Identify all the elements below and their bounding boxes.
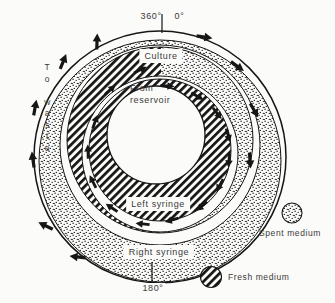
degree-0-label: 0°: [175, 11, 185, 21]
degree-360-label: 360°: [141, 11, 162, 21]
legend-spent-medium-label: Spent medium: [259, 228, 321, 238]
flow-arrow: [92, 33, 101, 49]
left-syringe-label: Left syringe: [126, 197, 190, 211]
legend-fresh-medium-label: Fresh medium: [228, 272, 290, 282]
top-degree-scale: 360° 0°: [0, 11, 330, 21]
legend-spent-medium-swatch: [282, 203, 302, 223]
flow-arrow: [56, 53, 70, 71]
degree-180-label: 180°: [140, 283, 165, 293]
to-waste-label: T o w a s t e: [40, 62, 55, 154]
reservoir-label: From reservoir: [130, 82, 170, 106]
culture-ring-label: Culture: [139, 49, 182, 63]
syringe-culture-flow-diagram: 360° 0° Culture From reservoir Left syri…: [0, 0, 335, 303]
flow-arrow: [28, 151, 39, 168]
right-syringe-label: Right syringe: [124, 245, 194, 259]
legend-fresh-medium-swatch: [201, 267, 222, 288]
